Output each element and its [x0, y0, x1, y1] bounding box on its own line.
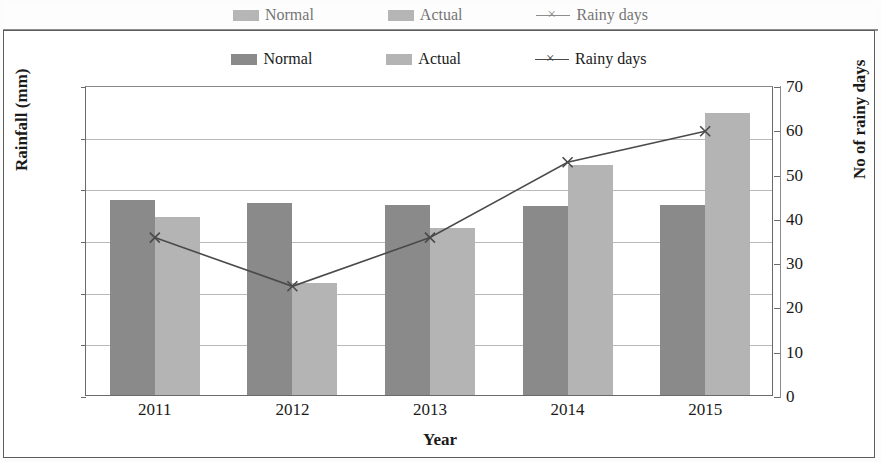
y-axis-right-tick-mark — [774, 176, 780, 177]
legend: Normal Actual Rainy days — [4, 49, 874, 69]
legend-swatch-actual-icon — [386, 54, 412, 65]
legend-item-rainy-days[interactable]: Rainy days — [535, 49, 647, 69]
chart-frame: Normal Actual Rainy days Rainfall (mm) N… — [3, 30, 875, 458]
right-axis-line — [780, 86, 781, 398]
y-axis-right-tick-label: 10 — [786, 343, 846, 363]
rainy-days-line — [155, 131, 705, 286]
y-axis-right-tick-label: 20 — [786, 298, 846, 318]
legend-label-rainy-days: Rainy days — [575, 49, 647, 69]
plot-area: 020040060080010001200 010203040506070 20… — [85, 86, 773, 396]
y-axis-right-tick-mark — [774, 131, 780, 132]
legend-label-normal: Normal — [263, 49, 312, 69]
legend-item-normal[interactable]: Normal — [231, 49, 312, 69]
legend-swatch-normal-icon — [233, 10, 259, 21]
x-axis-tick-label: 2011 — [86, 400, 224, 420]
y-axis-right-tick-mark — [774, 397, 780, 398]
x-axis-tick-label: 2012 — [224, 400, 362, 420]
y-axis-right-tick-mark — [774, 308, 780, 309]
y-axis-right-tick-mark — [774, 264, 780, 265]
y-axis-left-title: Rainfall (mm) — [12, 69, 32, 171]
y-axis-left-tick-mark — [81, 397, 86, 398]
legend-swatch-actual-icon — [388, 10, 414, 21]
legend-item-normal-top: Normal — [233, 5, 314, 25]
legend-label-normal-top: Normal — [265, 5, 314, 25]
legend-item-rainy-days-top: Rainy days — [536, 5, 648, 25]
y-axis-right-tick-mark — [774, 87, 780, 88]
legend-label-actual-top: Actual — [420, 5, 463, 25]
y-axis-right-tick-label: 60 — [786, 121, 846, 141]
rainy-days-marker-2012 — [287, 281, 297, 291]
y-axis-right-tick-mark — [774, 220, 780, 221]
rainy-days-marker-2013 — [425, 233, 435, 243]
x-axis-tick-label: 2014 — [499, 400, 637, 420]
x-axis-title: Year — [4, 430, 876, 450]
legend-swatch-normal-icon — [231, 54, 257, 65]
legend-top: Normal Actual Rainy days — [3, 5, 878, 25]
legend-item-actual-top: Actual — [388, 5, 463, 25]
chart-page: Normal Actual Rainy days Normal Actual — [0, 0, 881, 462]
legend-line-marker-x-icon — [536, 10, 570, 21]
y-axis-right-tick-label: 50 — [786, 166, 846, 186]
rainy-days-line-series — [86, 87, 774, 397]
legend-item-actual[interactable]: Actual — [386, 49, 461, 69]
clipped-legend-strip: Normal Actual Rainy days — [3, 2, 878, 31]
y-axis-right-tick-label: 0 — [786, 387, 846, 407]
x-axis-tick-label: 2015 — [636, 400, 774, 420]
rainy-days-marker-2011 — [150, 233, 160, 243]
y-axis-right-tick-label: 30 — [786, 254, 846, 274]
y-axis-right-tick-label: 70 — [786, 77, 846, 97]
legend-label-rainy-days-top: Rainy days — [576, 5, 648, 25]
y-axis-right-title: No of rainy days — [850, 60, 870, 179]
x-axis-tick-label: 2013 — [361, 400, 499, 420]
y-axis-right-tick-mark — [774, 353, 780, 354]
y-axis-right-tick-label: 40 — [786, 210, 846, 230]
legend-line-marker-x-icon — [535, 54, 569, 65]
legend-label-actual: Actual — [418, 49, 461, 69]
